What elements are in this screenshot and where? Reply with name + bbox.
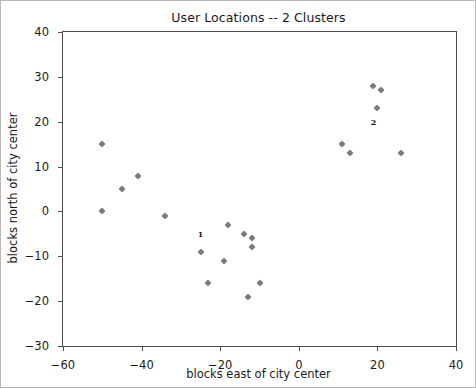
y-axis-tick-label: 10 <box>34 160 49 174</box>
data-point <box>378 87 385 94</box>
y-axis-tick: 0 <box>58 211 63 212</box>
y-axis-tick-label: −10 <box>25 249 49 263</box>
data-point <box>397 150 404 157</box>
data-point <box>99 141 106 148</box>
y-axis-tick-label: −30 <box>25 339 49 353</box>
x-axis-label: blocks east of city center <box>62 367 455 381</box>
data-point <box>99 208 106 215</box>
y-axis-tick-label: 20 <box>34 115 49 129</box>
y-axis-label: blocks north of city center <box>5 31 21 345</box>
x-axis-tick: −20 <box>220 346 221 351</box>
y-axis-tick: 30 <box>58 77 63 78</box>
cluster-annotation: 2 <box>371 118 377 126</box>
x-axis-tick: 20 <box>377 346 378 351</box>
data-point <box>221 257 228 264</box>
data-point <box>256 280 263 287</box>
x-axis-tick: −40 <box>142 346 143 351</box>
y-axis-tick: 10 <box>58 167 63 168</box>
y-axis-tick-label: 30 <box>34 70 49 84</box>
x-axis-tick: −60 <box>63 346 64 351</box>
y-axis-label-text: blocks north of city center <box>6 113 20 264</box>
page-title: User Locations -- 2 Clusters <box>62 10 455 25</box>
data-point <box>118 185 125 192</box>
data-point <box>240 230 247 237</box>
y-axis-tick-label: 40 <box>34 25 49 39</box>
cluster-annotation: 1 <box>198 230 204 238</box>
data-point <box>244 293 251 300</box>
data-point <box>338 141 345 148</box>
data-point <box>197 248 204 255</box>
x-axis-tick: 40 <box>456 346 457 351</box>
data-point <box>248 235 255 242</box>
y-axis-tick: −20 <box>58 301 63 302</box>
data-point <box>162 212 169 219</box>
data-point <box>346 150 353 157</box>
data-point <box>134 172 141 179</box>
scatter-plot-axes: −30−20−10010203040−60−40−200204012 <box>62 31 457 347</box>
data-point <box>248 244 255 251</box>
y-axis-tick: −10 <box>58 256 63 257</box>
data-point <box>205 280 212 287</box>
x-axis-tick: 0 <box>299 346 300 351</box>
y-axis-tick: 40 <box>58 32 63 33</box>
data-point <box>374 105 381 112</box>
figure-canvas: User Locations -- 2 Clusters −30−20−1001… <box>0 0 476 388</box>
y-axis-tick: 20 <box>58 122 63 123</box>
data-point <box>370 82 377 89</box>
y-axis-tick-label: −20 <box>25 294 49 308</box>
y-axis-tick-label: 0 <box>42 204 49 218</box>
data-point <box>225 221 232 228</box>
